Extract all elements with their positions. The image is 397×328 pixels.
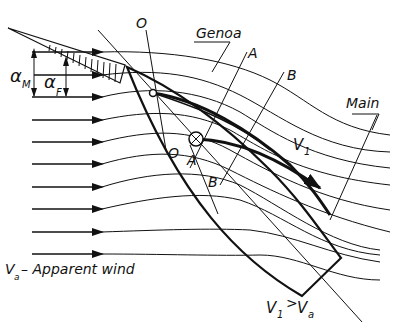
- label-b-bottom: B: [208, 174, 218, 190]
- label-v1: V 1: [293, 136, 310, 157]
- hull-centerline: [98, 30, 362, 322]
- svg-text:1: 1: [304, 146, 310, 157]
- svg-text:M: M: [22, 79, 31, 90]
- label-main: Main: [346, 95, 379, 111]
- svg-text:α: α: [44, 71, 56, 92]
- apparent-wind-arrows: [32, 52, 102, 254]
- mast-icon: [189, 132, 203, 146]
- streamlines: [102, 52, 390, 280]
- svg-text:1: 1: [277, 309, 283, 320]
- svg-text:>: >: [286, 295, 298, 311]
- label-o-top: O: [136, 15, 147, 31]
- genoa-tack-point: [150, 90, 157, 97]
- svg-text:F: F: [56, 87, 62, 98]
- label-b-top: B: [287, 67, 297, 83]
- label-v1-greater-va: V 1 > V a: [266, 295, 314, 320]
- label-a-top: A: [247, 45, 258, 61]
- label-genoa: Genoa: [196, 25, 241, 41]
- label-a-bottom: A: [186, 152, 197, 168]
- label-o-bottom: O: [168, 145, 179, 161]
- svg-text:a: a: [14, 272, 20, 282]
- label-apparent-wind: V a – Apparent wind: [5, 261, 135, 282]
- svg-text:α: α: [10, 65, 22, 86]
- svg-text:– Apparent wind: – Apparent wind: [21, 261, 135, 277]
- sail-airflow-diagram: α M α F O O Genoa A A B B Main V 1 V a –…: [0, 0, 397, 328]
- svg-text:a: a: [308, 309, 314, 320]
- label-alpha-m: α M: [10, 65, 31, 90]
